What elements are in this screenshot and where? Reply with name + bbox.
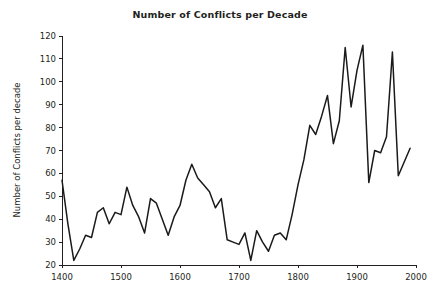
y-axis-tick-label: 90	[45, 100, 56, 110]
y-axis-title-label: Number of Conflicts per decade	[12, 82, 22, 217]
y-axis-tick-label: 100	[40, 77, 56, 87]
x-axis-tick-label: 2000	[405, 272, 427, 282]
y-axis-tick-label: 120	[40, 31, 56, 41]
y-axis-tick-label: 40	[45, 214, 56, 224]
x-axis-tick-label: 1400	[51, 272, 73, 282]
y-axis-tick-label: 50	[45, 191, 56, 201]
line-chart-plot: Number of Conflicts per decade 203040506…	[0, 0, 440, 300]
chart-figure: Number of Conflicts per Decade Number of…	[0, 0, 440, 300]
x-axis-tick-label: 1500	[110, 272, 132, 282]
y-axis-tick-label: 110	[40, 54, 56, 64]
y-axis-tick-label: 80	[45, 123, 56, 133]
y-axis-tick-label: 60	[45, 168, 56, 178]
y-axis-title: Number of Conflicts per decade	[12, 82, 22, 217]
x-axis-tick-label: 1700	[228, 272, 250, 282]
x-axis-tick-labels: 1400150016001700180019002000	[51, 272, 427, 282]
data-series-line	[62, 45, 410, 260]
y-axis-tick-label: 20	[45, 260, 56, 270]
y-axis-tick-labels: 2030405060708090100110120	[40, 31, 56, 270]
y-axis-tick-label: 70	[45, 146, 56, 156]
y-axis-tick-label: 30	[45, 237, 56, 247]
x-axis-tick-label: 1800	[287, 272, 309, 282]
x-axis-tick-label: 1600	[169, 272, 191, 282]
x-axis-tick-label: 1900	[346, 272, 368, 282]
